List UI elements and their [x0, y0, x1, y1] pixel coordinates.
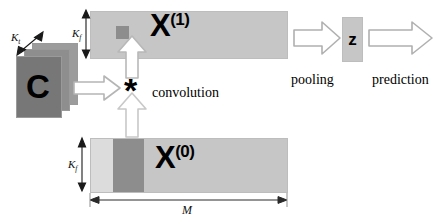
arrow-filters-to-operator	[74, 76, 120, 100]
filter-depth-dimension-bar	[17, 32, 43, 55]
arrow-pooling	[294, 22, 340, 54]
x0-width-dimension-bar	[90, 197, 287, 204]
x1-height-dimension-bar	[82, 10, 89, 58]
arrow-prediction	[369, 22, 432, 54]
arrow-input-to-operator	[118, 93, 146, 137]
diagram-canvas: X(1) X(0) C * z Kf Kf Kt M convolution p…	[0, 0, 441, 223]
x0-height-dimension-bar	[78, 138, 85, 191]
arrow-operator-to-output-map	[118, 36, 146, 78]
arrow-overlay	[0, 0, 441, 223]
